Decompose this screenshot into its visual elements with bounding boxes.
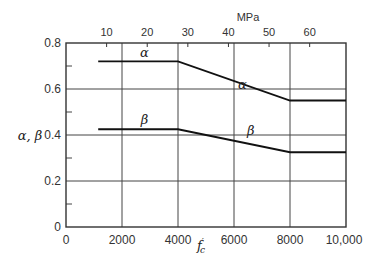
y-tick-label: 0.6 [44,82,61,96]
x-axis-label: f′c [196,237,205,255]
y-tick-label: 0.8 [44,36,61,50]
x-tick-label: 2000 [109,233,136,247]
x-axis-ticks: 0200040006000800010,000 [63,233,363,247]
x-tick-label: 0 [63,233,70,247]
top-tick-label: 40 [222,26,234,38]
data-series [98,61,346,152]
y-tick-label: 0 [54,220,61,234]
curve-label: α [140,45,149,60]
y-tick-label: 0.4 [44,128,61,142]
curve-labels: ααββ [140,45,255,138]
top-tick-label: 30 [182,26,194,38]
top-tick-label: 50 [263,26,275,38]
series-line [98,129,346,152]
curve-label: β [246,123,255,138]
x-tick-label: 8000 [277,233,304,247]
series-line [98,61,346,100]
top-tick-label: 10 [100,26,112,38]
chart: 00.20.40.60.8 0200040006000800010,000 10… [0,0,375,267]
y-axis-ticks: 00.20.40.60.8 [44,36,61,234]
x-tick-label: 6000 [221,233,248,247]
top-tick-label: 60 [304,26,316,38]
x-tick-label: 10,000 [326,233,363,247]
curve-label: β [140,112,149,127]
curve-label: α [238,77,247,92]
y-axis-label: α, β [18,128,43,143]
top-axis-label: MPa [237,11,261,23]
y-tick-label: 0.2 [44,174,61,188]
top-tick-label: 20 [141,26,153,38]
x-tick-label: 4000 [165,233,192,247]
top-axis-ticks: 102030405060 [100,26,315,47]
